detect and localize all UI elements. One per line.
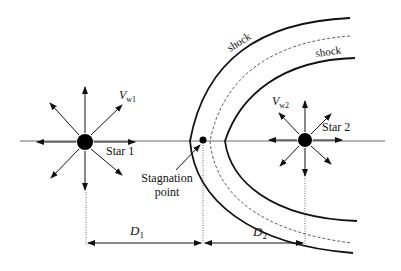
stagnation-label-line1: Stagnation	[141, 171, 192, 185]
wind-velocity-2-label: Vw2	[272, 94, 289, 110]
colliding-winds-diagram: Star 1 Vw1 Star 2 Vw2 shock shock Stagna…	[0, 0, 401, 271]
outer-shock-label: shock	[225, 30, 254, 54]
distance-1-label: D1	[129, 223, 144, 240]
wind-velocity-1-label: Vw1	[119, 88, 136, 104]
star-1-label: Star 1	[106, 144, 134, 158]
star-2-label: Star 2	[322, 120, 350, 134]
stagnation-point	[200, 137, 207, 144]
stagnation-pointer-arrow	[176, 145, 200, 170]
stagnation-label-line2: point	[155, 185, 180, 199]
star-2	[269, 101, 342, 176]
distance-2-label: D2	[252, 224, 267, 241]
star-1	[37, 87, 135, 190]
inner-shock-label: shock	[315, 43, 343, 59]
